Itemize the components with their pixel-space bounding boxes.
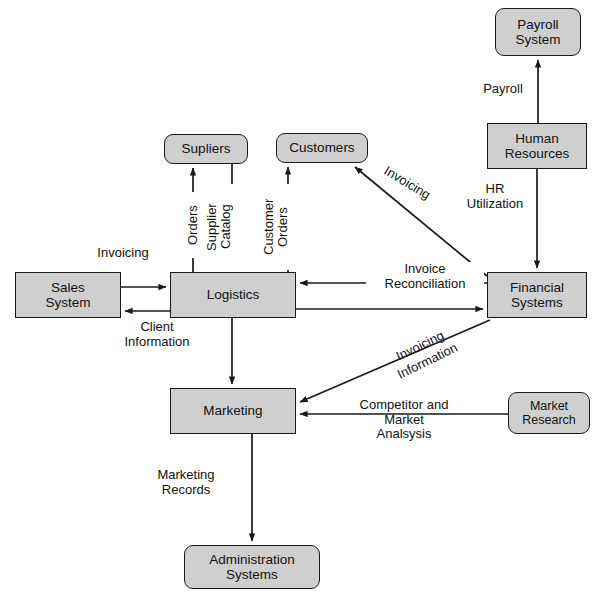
node-administration-systems[interactable]: AdministrationSystems <box>184 545 320 589</box>
edge-label-customer-orders: Customer Orders <box>262 184 298 270</box>
top-cropped-text-strip <box>0 0 600 7</box>
edge-label-orders: Orders <box>186 192 201 258</box>
node-supliers[interactable]: Supliers <box>164 134 248 164</box>
node-customers-label: Customers <box>285 140 358 155</box>
node-market-research[interactable]: MarketResearch <box>508 392 590 434</box>
node-market-research-label: MarketResearch <box>518 399 580 427</box>
edge-label-competitor-market-analysis: Competitor and Market Analsysis <box>318 398 490 442</box>
edge-label-invoicing-sales: Invoicing <box>87 246 159 261</box>
edge-label-marketing-records: Marketing Records <box>141 468 231 497</box>
node-financial-systems-label: FinancialSystems <box>506 280 568 310</box>
edge-label-payroll: Payroll <box>470 82 536 97</box>
edge-label-client-information: Client Information <box>110 320 204 349</box>
node-payroll-system[interactable]: PayrollSystem <box>495 8 581 56</box>
node-logistics[interactable]: Logistics <box>170 272 296 318</box>
node-human-resources[interactable]: HumanResources <box>487 123 587 169</box>
node-sales-system[interactable]: SalesSystem <box>15 272 121 318</box>
node-human-resources-label: HumanResources <box>501 131 574 161</box>
node-customers[interactable]: Customers <box>276 133 368 163</box>
node-payroll-system-label: PayrollSystem <box>511 17 564 47</box>
node-marketing-label: Marketing <box>199 403 266 418</box>
node-marketing[interactable]: Marketing <box>170 388 296 434</box>
edge-label-invoice-reconciliation: Invoice Reconciliation <box>366 262 484 291</box>
node-supliers-label: Supliers <box>178 141 235 156</box>
edge-label-hr-utilization: HR Utilization <box>455 182 535 211</box>
node-logistics-label: Logistics <box>203 287 264 302</box>
diagram-canvas: PayrollSystem HumanResources FinancialSy… <box>0 0 600 596</box>
edge-label-supplier-catalog: Supplier Catalog <box>205 184 241 270</box>
node-administration-systems-label: AdministrationSystems <box>205 552 299 582</box>
node-financial-systems[interactable]: FinancialSystems <box>487 272 587 318</box>
node-sales-system-label: SalesSystem <box>41 280 94 310</box>
